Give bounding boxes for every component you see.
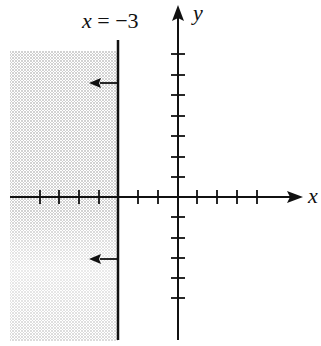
- boundary-label-value: = −3: [92, 8, 139, 33]
- boundary-label-var: x: [82, 8, 92, 33]
- x-axis-label: x: [308, 183, 318, 209]
- y-axis: [171, 5, 185, 340]
- coordinate-plane: [0, 0, 321, 346]
- y-axis-label: y: [193, 0, 203, 26]
- graph-diagram: x = −3 y x: [0, 0, 321, 346]
- boundary-label: x = −3: [82, 8, 139, 34]
